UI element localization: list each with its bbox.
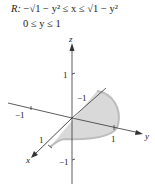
y-axis-label: y	[144, 131, 149, 141]
y-axis-arrow-icon	[135, 130, 143, 135]
x-pos-tick-label: 1	[39, 135, 44, 145]
z-neg-tick-label: −1	[59, 157, 69, 167]
z-tick-neg	[72, 159, 75, 160]
x-neg-tick-label: −1	[77, 93, 87, 103]
x-axis-label: x	[25, 155, 30, 165]
3d-axes-diagram: z 1 −1 −1 −1 1 1 x y	[0, 0, 155, 191]
y-pos-tick-label: 1	[111, 134, 116, 144]
y-neg-tick-label: −1	[15, 110, 25, 120]
z-axis-arrow-icon	[70, 43, 75, 51]
z-pos-tick-label: 1	[63, 70, 68, 80]
z-tick-pos	[72, 73, 75, 74]
z-axis-label: z	[68, 34, 73, 44]
